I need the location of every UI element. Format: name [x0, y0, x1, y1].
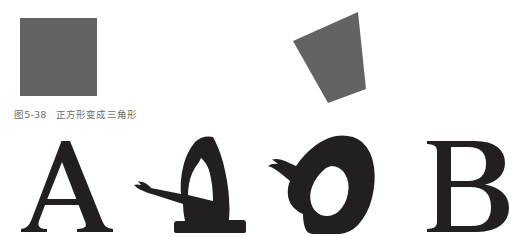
letter-morph-sequence	[0, 132, 532, 237]
letter-a-glyph	[21, 141, 113, 232]
letter-step-a-warped	[133, 132, 266, 237]
letter-step-a	[0, 132, 133, 237]
figure-caption: 图5-38 正方形变成三角形	[14, 106, 334, 124]
shape-step-near-triangle	[266, 0, 399, 108]
figure-caption-text: 正方形变成三角形	[56, 108, 138, 122]
shape-step-tilted-quadrilateral	[133, 0, 266, 108]
letter-a-warped-glyph	[134, 137, 246, 233]
figure-caption-number: 图5-38	[14, 108, 47, 122]
shape-step-triangle	[399, 0, 532, 108]
figure-page: 图5-38 正方形变成三角形	[0, 0, 532, 237]
letter-step-b	[399, 132, 532, 237]
letter-step-b-warped	[266, 132, 399, 237]
shape-step-square	[0, 0, 133, 108]
letter-b-warped-glyph	[268, 136, 375, 234]
shape-morph-sequence	[0, 0, 532, 108]
letter-b-glyph	[427, 141, 509, 232]
square-shape	[20, 18, 97, 96]
